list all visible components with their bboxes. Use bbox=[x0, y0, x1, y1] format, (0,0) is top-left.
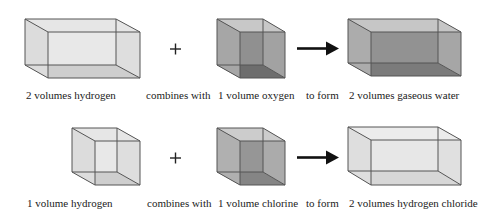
label-product: 2 volumes gaseous water bbox=[349, 89, 459, 101]
box-2-volumes-hydrogen-chloride bbox=[348, 127, 461, 185]
label-product: 2 volumes hydrogen chloride bbox=[349, 197, 478, 209]
label-reactant2: 1 volume oxygen bbox=[218, 89, 294, 101]
plus-icon bbox=[170, 153, 181, 164]
label-reactant1: 2 volumes hydrogen bbox=[26, 89, 116, 101]
box-2-volumes-gaseous-water bbox=[348, 19, 461, 76]
label-connector-form: to form bbox=[306, 89, 339, 101]
cube-1-volume-chlorine bbox=[217, 128, 285, 185]
label-connector-form: to form bbox=[306, 197, 339, 209]
arrow-right-icon bbox=[297, 151, 339, 165]
label-connector-combines: combines with bbox=[147, 197, 211, 209]
box-2-volumes-hydrogen bbox=[25, 19, 140, 78]
cube-1-volume-oxygen bbox=[217, 19, 285, 78]
arrow-right-icon bbox=[297, 42, 339, 56]
label-reactant2: 1 volume chlorine bbox=[218, 197, 298, 209]
label-reactant1: 1 volume hydrogen bbox=[27, 197, 113, 209]
gas-volume-diagram: 2 volumes hydrogen combines with 1 volum… bbox=[0, 0, 487, 214]
diagram-canvas bbox=[0, 0, 487, 214]
label-connector-combines: combines with bbox=[146, 89, 210, 101]
cube-1-volume-hydrogen bbox=[72, 128, 140, 185]
plus-icon bbox=[170, 44, 181, 55]
